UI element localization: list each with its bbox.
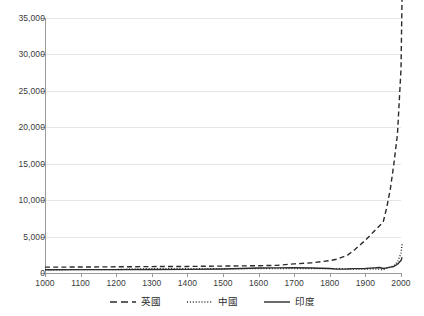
x-tick-mark bbox=[81, 273, 82, 277]
legend-swatch-dashed bbox=[110, 298, 136, 306]
x-tick-mark bbox=[223, 273, 224, 277]
x-tick-mark bbox=[116, 273, 117, 277]
x-tick-mark bbox=[187, 273, 188, 277]
series-line-uk bbox=[45, 0, 402, 267]
legend-item-india[interactable]: 印度 bbox=[264, 297, 315, 307]
legend-item-uk[interactable]: 英國 bbox=[110, 297, 161, 307]
x-tick-label: 1000 bbox=[25, 279, 65, 288]
y-tick-label: 35,000 bbox=[5, 14, 45, 23]
x-tick-label: 1700 bbox=[274, 279, 314, 288]
series-line-china bbox=[45, 244, 402, 270]
y-tick-label: 10,000 bbox=[5, 196, 45, 205]
legend-label-china: 中國 bbox=[218, 297, 238, 307]
legend-label-india: 印度 bbox=[295, 297, 315, 307]
y-tick-label: 15,000 bbox=[5, 160, 45, 169]
legend-swatch-solid bbox=[264, 298, 290, 306]
x-tick-label: 1800 bbox=[310, 279, 350, 288]
x-tick-label: 1300 bbox=[132, 279, 172, 288]
chart-legend: 英國 中國 印度 bbox=[0, 297, 424, 307]
x-tick-label: 2000 bbox=[381, 279, 421, 288]
x-tick-label: 1900 bbox=[345, 279, 385, 288]
y-tick-label: 20,000 bbox=[5, 123, 45, 132]
x-tick-mark bbox=[152, 273, 153, 277]
x-tick-mark bbox=[294, 273, 295, 277]
x-tick-mark bbox=[45, 273, 46, 277]
y-tick-label: 25,000 bbox=[5, 87, 45, 96]
y-tick-label: 30,000 bbox=[5, 50, 45, 59]
x-tick-mark bbox=[259, 273, 260, 277]
x-tick-mark bbox=[330, 273, 331, 277]
x-tick-label: 1100 bbox=[61, 279, 101, 288]
x-tick-mark bbox=[401, 273, 402, 277]
legend-swatch-dotted bbox=[187, 298, 213, 306]
x-tick-mark bbox=[365, 273, 366, 277]
series-line-india bbox=[45, 257, 402, 269]
legend-item-china[interactable]: 中國 bbox=[187, 297, 238, 307]
x-tick-label: 1200 bbox=[96, 279, 136, 288]
x-tick-label: 1500 bbox=[203, 279, 243, 288]
y-tick-label: 0 bbox=[5, 269, 45, 278]
x-tick-label: 1600 bbox=[239, 279, 279, 288]
legend-label-uk: 英國 bbox=[141, 297, 161, 307]
y-tick-label: 5,000 bbox=[5, 233, 45, 242]
chart-container: 05,00010,00015,00020,00025,00030,00035,0… bbox=[0, 0, 424, 316]
series-layer bbox=[45, 18, 401, 273]
x-tick-label: 1400 bbox=[167, 279, 207, 288]
